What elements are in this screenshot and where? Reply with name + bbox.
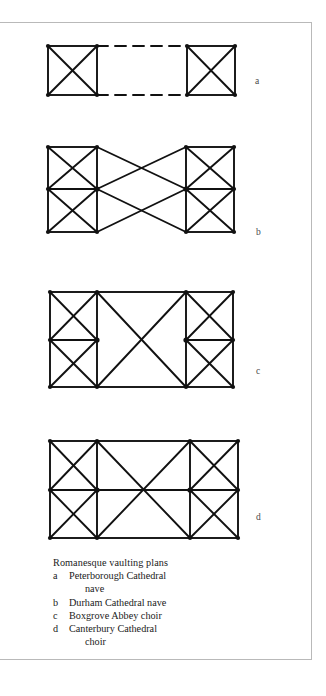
- plan-a-peterborough: [46, 44, 237, 97]
- caption-entry-c: c Boxgrove Abbey choir: [53, 609, 253, 622]
- plan-b-durham: [46, 145, 236, 234]
- figure-label-d: d: [256, 513, 261, 523]
- caption-text-d: Canterbury Cathedral: [69, 622, 253, 635]
- plan-b-central-crossing: [97, 147, 186, 232]
- caption-text-b: Durham Cathedral nave: [69, 596, 253, 609]
- caption-entry-b: b Durham Cathedral nave: [53, 596, 253, 609]
- plan-a-left-bay: [48, 46, 97, 95]
- figure-label-c: c: [256, 367, 260, 377]
- caption-key-b: b: [53, 596, 69, 609]
- caption-key-c: c: [53, 609, 69, 622]
- plan-b-left-block: [48, 147, 97, 232]
- plan-a-dashed-connector: [97, 46, 187, 95]
- caption-title: Romanesque vaulting plans: [53, 556, 253, 569]
- plan-d-canterbury: [48, 439, 240, 540]
- caption-entry-d: d Canterbury Cathedral: [53, 622, 253, 635]
- plan-a-pier-nodes: [46, 44, 237, 97]
- figure-label-a: a: [255, 77, 259, 87]
- caption-text-a: Peterborough Cathedral: [69, 569, 253, 582]
- plan-c-central-bay: [97, 292, 186, 387]
- figure-page: a b c d Romanesque vaulting plans a Pete…: [0, 0, 326, 696]
- caption-key-d: d: [53, 622, 69, 635]
- plan-a-right-bay: [187, 46, 235, 95]
- caption-continuation-a: nave: [53, 582, 253, 595]
- plan-c-boxgrove: [48, 290, 235, 389]
- caption-entry-a: a Peterborough Cathedral: [53, 569, 253, 582]
- plan-c-left-bay: [50, 292, 97, 387]
- plan-b-right-block: [186, 147, 234, 232]
- plan-c-right-bay: [186, 292, 233, 387]
- caption-key-a: a: [53, 569, 69, 582]
- figure-caption: Romanesque vaulting plans a Peterborough…: [53, 556, 253, 648]
- caption-text-c: Boxgrove Abbey choir: [69, 609, 253, 622]
- caption-continuation-d: choir: [53, 635, 253, 648]
- figure-label-b: b: [256, 228, 261, 238]
